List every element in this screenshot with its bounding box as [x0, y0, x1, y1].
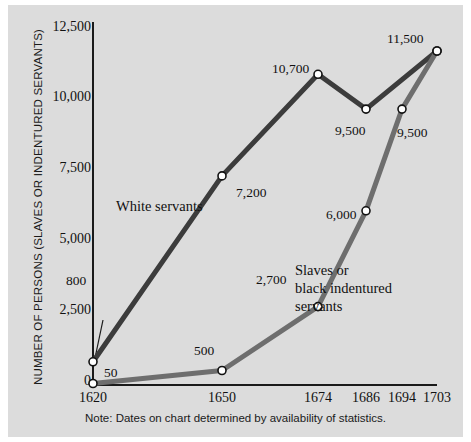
series-line-slaves	[93, 51, 437, 384]
data-point	[362, 105, 370, 113]
data-label-slaves-1674: 2,700	[256, 272, 286, 288]
data-point	[89, 358, 97, 366]
slaves-label-line1: Slaves or	[295, 261, 392, 279]
chart-note: Note: Dates on chart determined by avail…	[8, 412, 463, 424]
data-label-white-1650: 7,200	[236, 185, 266, 201]
data-point	[218, 367, 226, 375]
data-point	[433, 47, 441, 55]
data-label-slaves-1686: 6,000	[326, 207, 356, 223]
data-point	[362, 207, 370, 215]
data-label-slaves-1650: 500	[194, 343, 214, 359]
data-point	[314, 70, 322, 78]
plot-area	[8, 5, 463, 437]
data-label-white-1620: 800	[66, 273, 86, 289]
data-label-slaves-1694: 9,500	[397, 125, 427, 141]
data-point	[89, 380, 97, 388]
data-label-white-1674: 10,700	[272, 61, 309, 77]
data-point	[218, 172, 226, 180]
chart-figure: NUMBER OF PERSONS (SLAVES OR INDENTURED …	[8, 5, 463, 437]
data-label-slaves-1620: 50	[104, 365, 118, 381]
series-markers-slaves	[89, 47, 441, 388]
white-servants-label: White servants	[116, 197, 203, 215]
slaves-label-line2: black indentured	[295, 279, 392, 297]
slaves-label-line3: servants	[295, 297, 392, 315]
data-label-white-1686: 9,500	[335, 123, 365, 139]
data-label-white-1703: 11,500	[387, 31, 424, 47]
data-point	[398, 105, 406, 113]
slaves-label: Slaves or black indentured servants	[295, 261, 392, 315]
